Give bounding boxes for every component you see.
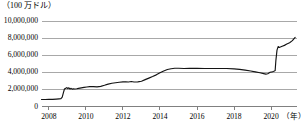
x-axis-tick-label: 2020: [263, 112, 278, 121]
x-axis: [42, 107, 298, 110]
gridlines-group: [42, 21, 298, 89]
x-axis-tick-labels: 2008201020122014201620182020: [41, 112, 279, 121]
y-axis-tick-label: 4,000,000: [8, 67, 39, 76]
y-axis-tick-label: 6,000,000: [8, 50, 39, 59]
data-series-line: [42, 37, 296, 99]
y-axis-tick-label: 10,000,000: [4, 16, 38, 25]
x-axis-tick-label: 2014: [152, 112, 167, 121]
x-axis-tick-label: 2008: [41, 112, 56, 121]
x-axis-unit-label: （年）: [282, 111, 301, 121]
chart-container: （100 万ドル） 02,000,0004,000,0006,000,0008,…: [0, 0, 301, 139]
x-axis-tick-label: 2010: [78, 112, 93, 121]
y-axis-tick-label: 8,000,000: [8, 33, 39, 42]
x-axis-tick-label: 2018: [226, 112, 241, 121]
x-axis-tick-label: 2012: [115, 112, 130, 121]
y-axis-tick-label: 2,000,000: [8, 84, 39, 93]
y-axis-tick-label: 0: [34, 102, 38, 111]
line-chart-plot: 02,000,0004,000,0006,000,0008,000,00010,…: [0, 0, 301, 139]
y-axis-tick-labels: 02,000,0004,000,0006,000,0008,000,00010,…: [4, 16, 38, 111]
x-axis-tick-label: 2016: [189, 112, 204, 121]
